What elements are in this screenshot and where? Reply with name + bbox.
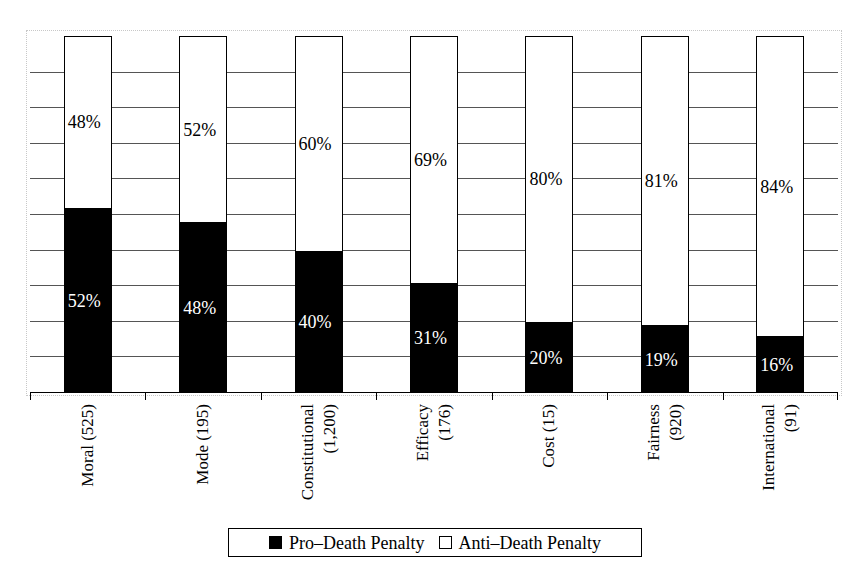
x-tick-1 xyxy=(145,393,146,400)
x-axis-label: (1,200) xyxy=(321,404,339,524)
x-axis-label: International xyxy=(760,404,778,524)
bar-segment-anti[interactable]: 84% xyxy=(757,37,803,336)
bar-segment-anti[interactable]: 48% xyxy=(65,37,111,208)
x-tick-6 xyxy=(723,393,724,400)
bar-stack: 52%48% xyxy=(179,36,227,392)
bar-value-label-pro: 48% xyxy=(183,299,216,317)
bar-value-label-pro: 31% xyxy=(414,329,447,347)
bar-stack: 84%16% xyxy=(756,36,804,392)
bar-segment-pro[interactable]: 20% xyxy=(526,322,572,393)
bar-stack: 60%40% xyxy=(295,36,343,392)
bar-stack: 69%31% xyxy=(410,36,458,392)
bar-value-label-pro: 40% xyxy=(299,313,332,331)
bar-value-label-pro: 52% xyxy=(68,292,101,310)
legend-swatch-filled xyxy=(269,536,282,549)
bar-value-label-anti: 81% xyxy=(645,172,678,190)
bar-value-label-anti: 48% xyxy=(68,113,101,131)
bar-value-label-anti: 80% xyxy=(529,170,562,188)
axis-end-tick-left xyxy=(30,393,31,400)
bar-group[interactable]: 52%48% xyxy=(179,36,227,392)
x-axis-label: Constitutional xyxy=(299,404,317,524)
bar-segment-pro[interactable]: 19% xyxy=(642,325,688,393)
x-axis-label: (920) xyxy=(667,404,685,524)
bar-segment-anti[interactable]: 80% xyxy=(526,37,572,322)
bar-segment-pro[interactable]: 40% xyxy=(296,251,342,393)
axis-end-tick-right xyxy=(837,393,838,400)
x-axis-label: Mode (195) xyxy=(194,404,212,524)
x-tick-3 xyxy=(376,393,377,400)
bar-stack: 81%19% xyxy=(641,36,689,392)
bar-group[interactable]: 80%20% xyxy=(525,36,573,392)
bar-group[interactable]: 69%31% xyxy=(410,36,458,392)
bar-segment-anti[interactable]: 52% xyxy=(180,37,226,222)
x-axis-label: Cost (15) xyxy=(540,404,558,524)
legend-entry[interactable]: Pro–Death Penalty xyxy=(269,534,424,552)
x-axis xyxy=(30,392,838,393)
x-axis-label: (176) xyxy=(436,404,454,524)
bar-value-label-pro: 16% xyxy=(760,356,793,374)
legend-label: Pro–Death Penalty xyxy=(289,534,424,552)
x-axis-label: Efficacy xyxy=(414,404,432,524)
x-axis-label: Fairness xyxy=(645,404,663,524)
bar-value-label-pro: 19% xyxy=(645,351,678,369)
bar-segment-anti[interactable]: 69% xyxy=(411,37,457,283)
x-axis-label: (91) xyxy=(782,404,800,524)
bar-segment-anti[interactable]: 81% xyxy=(642,37,688,325)
legend-swatch-hollow xyxy=(439,536,452,549)
bar-group[interactable]: 81%19% xyxy=(641,36,689,392)
bar-group[interactable]: 48%52% xyxy=(64,36,112,392)
bar-group[interactable]: 84%16% xyxy=(756,36,804,392)
bar-value-label-anti: 60% xyxy=(299,135,332,153)
bar-value-label-anti: 84% xyxy=(760,178,793,196)
x-tick-2 xyxy=(261,393,262,400)
bar-segment-pro[interactable]: 48% xyxy=(180,222,226,393)
chart-legend: Pro–Death PenaltyAnti–Death Penalty xyxy=(228,528,642,557)
bar-segment-anti[interactable]: 60% xyxy=(296,37,342,251)
x-tick-5 xyxy=(607,393,608,400)
bar-stack: 80%20% xyxy=(525,36,573,392)
bar-value-label-anti: 52% xyxy=(183,121,216,139)
bar-value-label-anti: 69% xyxy=(414,151,447,169)
legend-label: Anti–Death Penalty xyxy=(459,534,601,552)
x-axis-label: Moral (525) xyxy=(79,404,97,524)
x-tick-4 xyxy=(492,393,493,400)
plot-area: 48%52%52%48%60%40%69%31%80%20%81%19%84%1… xyxy=(30,36,838,392)
bar-value-label-pro: 20% xyxy=(529,349,562,367)
bar-segment-pro[interactable]: 16% xyxy=(757,336,803,393)
bar-segment-pro[interactable]: 31% xyxy=(411,283,457,393)
bar-segment-pro[interactable]: 52% xyxy=(65,208,111,393)
legend-entry[interactable]: Anti–Death Penalty xyxy=(439,534,601,552)
bar-group[interactable]: 60%40% xyxy=(295,36,343,392)
bar-stack: 48%52% xyxy=(64,36,112,392)
